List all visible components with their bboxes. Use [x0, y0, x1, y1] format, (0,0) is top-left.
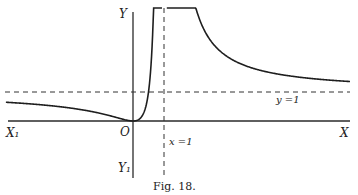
origin-label: O	[120, 125, 130, 139]
horizontal-asymptote-label: y =1	[275, 94, 300, 105]
curve-right-branch	[167, 8, 350, 82]
negative-x-axis-label: X₁	[5, 126, 19, 140]
figure-canvas: Y X X₁ Y₁ O x =1 y =1 Fig. 18.	[0, 0, 358, 195]
curve-left-branch	[6, 8, 162, 121]
x-axis-label: X	[339, 126, 349, 140]
negative-y-axis-label: Y₁	[118, 161, 131, 175]
y-axis-label: Y	[119, 7, 128, 21]
figure-caption: Fig. 18.	[153, 180, 196, 193]
vertical-asymptote-label: x =1	[169, 136, 193, 147]
